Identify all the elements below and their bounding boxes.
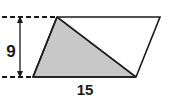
shaded-triangle — [33, 17, 136, 77]
base-label: 15 — [77, 81, 94, 98]
geometry-diagram-canvas: 9 15 — [0, 0, 172, 98]
geometry-figure: 9 15 — [0, 0, 172, 98]
height-label: 9 — [6, 42, 15, 61]
